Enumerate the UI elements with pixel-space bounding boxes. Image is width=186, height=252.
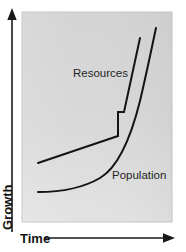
growth-vs-time-chart: Growth Time Resources Population [0, 0, 186, 252]
x-axis-label: Time [20, 231, 50, 246]
chart-svg: Growth Time Resources Population [0, 0, 186, 252]
up-arrow-icon [7, 8, 16, 20]
right-arrow-icon [163, 233, 175, 242]
y-axis-label: Growth [0, 184, 15, 230]
series-label-resources: Resources [73, 67, 128, 79]
plot-area-shading [22, 12, 172, 222]
series-label-population: Population [112, 169, 166, 181]
